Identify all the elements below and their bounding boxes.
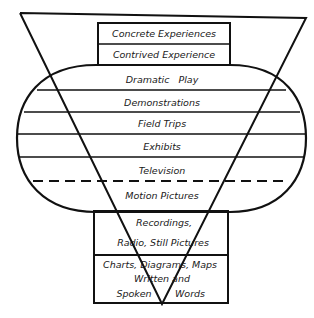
label-radio-still-pictures: Radio, Still Pictures: [117, 237, 209, 248]
label-exhibits: Exhibits: [143, 141, 181, 152]
label-dramatic-play: Dramatic Play: [126, 74, 199, 85]
cone-of-experience-diagram: Concrete Experiences Contrived Experienc…: [0, 0, 314, 318]
label-contrived-experience: Contrived Experience: [113, 49, 215, 60]
label-demonstrations: Demonstrations: [124, 97, 200, 108]
label-television: Television: [139, 165, 186, 176]
label-charts-diagrams-maps: Charts, Diagrams, Maps: [103, 259, 217, 270]
label-spoken: Spoken: [116, 288, 151, 299]
label-motion-pictures: Motion Pictures: [125, 190, 198, 201]
label-field-trips: Field Trips: [138, 118, 186, 129]
label-words: Words: [175, 288, 205, 299]
label-recordings: Recordings,: [136, 217, 192, 228]
label-concrete-experiences: Concrete Experiences: [112, 28, 216, 39]
label-written-and: Written and: [134, 273, 191, 284]
